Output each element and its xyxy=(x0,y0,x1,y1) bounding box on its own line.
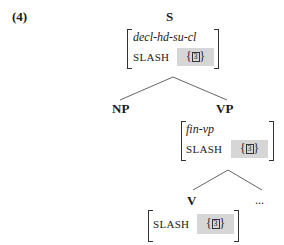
example-number: (4) xyxy=(12,9,27,25)
right-bracket xyxy=(269,121,274,161)
slash-value: {3} xyxy=(197,217,234,229)
avm-v: SLASH {3} xyxy=(148,210,239,242)
slash-value: {3} xyxy=(177,50,214,62)
node-ellipsis: ... xyxy=(255,193,264,208)
node-s-label: S xyxy=(166,9,173,25)
branch-vp-ellipsis xyxy=(228,170,262,190)
node-vp-label: VP xyxy=(216,101,233,117)
tag-box: 3 xyxy=(212,219,220,229)
branch-vp-v xyxy=(193,170,228,190)
slash-value: {3} xyxy=(231,142,268,154)
brace-close: } xyxy=(254,142,260,154)
left-bracket xyxy=(127,29,132,69)
brace-close: } xyxy=(220,217,226,229)
avm-type: decl-hd-su-cl xyxy=(133,30,196,45)
branch-s-np xyxy=(120,77,173,100)
avm-feature-slash: SLASH xyxy=(133,51,169,63)
slash-value-highlight: {3} xyxy=(197,214,234,234)
brace-close: } xyxy=(200,50,206,62)
tag-box: 3 xyxy=(246,144,254,154)
avm-type: fin-vp xyxy=(186,122,214,137)
tag-box: 3 xyxy=(192,52,200,62)
slash-value-highlight: {3} xyxy=(177,48,214,66)
avm-s: decl-hd-su-cl SLASH {3} xyxy=(127,29,219,69)
avm-feature-slash: SLASH xyxy=(186,143,222,155)
branch-s-vp xyxy=(173,77,227,100)
right-bracket xyxy=(234,210,239,242)
avm-vp: fin-vp SLASH {3} xyxy=(181,121,274,161)
avm-feature-slash: SLASH xyxy=(153,218,189,230)
node-v-label: V xyxy=(187,193,196,209)
slash-value-highlight: {3} xyxy=(231,140,268,158)
node-np-label: NP xyxy=(112,101,129,117)
right-bracket xyxy=(214,29,219,69)
